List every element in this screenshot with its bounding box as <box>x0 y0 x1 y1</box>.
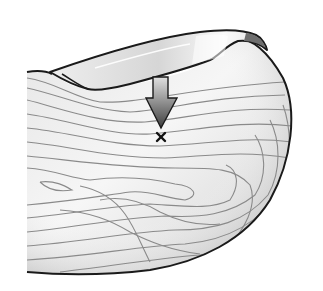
fingertip-diagram <box>0 0 323 291</box>
fingertip-illustration <box>0 0 323 291</box>
